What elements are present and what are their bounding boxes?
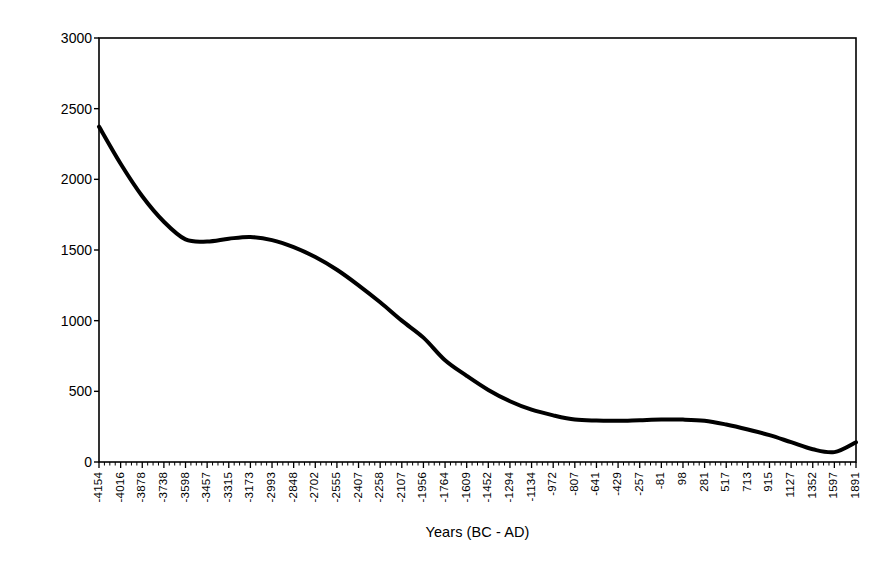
x-axis-tick-label: 915 <box>763 472 775 492</box>
x-axis-tick-label: -1609 <box>461 472 473 502</box>
x-axis-tick-label: -1764 <box>439 472 451 502</box>
x-axis-tick-label: -4016 <box>115 472 127 502</box>
y-axis-tick-label: 0 <box>46 455 92 469</box>
y-axis-tick-label: 500 <box>46 384 92 398</box>
x-axis-tick-label: -2848 <box>288 472 300 502</box>
plot-frame <box>99 38 856 462</box>
pollen-count-line-chart: Plantago Pollen Count Years (BC - AD) 05… <box>0 0 892 564</box>
x-axis-tick-label: -4154 <box>93 472 105 502</box>
x-axis-tick-label: -1956 <box>417 472 429 502</box>
x-axis-tick-label: -3457 <box>201 472 213 502</box>
x-axis-tick-label: -2258 <box>374 472 386 502</box>
x-axis-tick-label: -2993 <box>266 472 278 502</box>
x-axis-tick-label: 1352 <box>807 472 819 498</box>
x-axis-tick-label: -1134 <box>526 472 538 502</box>
x-axis-tick-label: -3738 <box>158 472 170 502</box>
x-axis-tick-label: -1294 <box>504 472 516 502</box>
y-axis-tick-label: 1000 <box>46 314 92 328</box>
x-axis-tick-label: -3173 <box>244 472 256 502</box>
x-axis-tick-label: 1597 <box>828 472 840 498</box>
x-axis-title: Years (BC - AD) <box>99 524 856 540</box>
y-axis-tick-label: 2500 <box>46 102 92 116</box>
x-axis-tick-label: -3315 <box>223 472 235 502</box>
x-axis-tick-label: 281 <box>699 472 711 492</box>
x-axis-tick-label: -1452 <box>482 472 494 502</box>
x-axis-tick-label: -2407 <box>353 472 365 502</box>
y-axis-title: Plantago Pollen Count <box>8 0 32 62</box>
x-axis-tick-label: -3598 <box>180 472 192 502</box>
x-axis-tick-label: -2555 <box>331 472 343 502</box>
y-axis-tick-label: 1500 <box>46 243 92 257</box>
x-axis-tick-label: 713 <box>742 472 754 492</box>
x-axis-tick-label: -257 <box>634 472 646 496</box>
x-axis-tick-label: -807 <box>569 472 581 496</box>
x-axis-tick-label: 1891 <box>850 472 862 498</box>
x-axis-tick-label: -81 <box>655 472 667 489</box>
x-axis-tick-label: -3878 <box>136 472 148 502</box>
x-axis-tick-label: -972 <box>547 472 559 496</box>
x-axis-tick-label: -429 <box>612 472 624 496</box>
x-axis-tick-label: -641 <box>590 472 602 496</box>
x-axis-tick-label: 98 <box>677 472 689 485</box>
y-axis-tick-label: 2000 <box>46 172 92 186</box>
x-axis-tick-label: -2702 <box>309 472 321 502</box>
x-axis-tick-label: 517 <box>720 472 732 492</box>
y-axis-tick-label: 3000 <box>46 31 92 45</box>
x-axis-tick-label: -2107 <box>396 472 408 502</box>
data-series-line <box>99 127 856 453</box>
x-axis-tick-label: 1127 <box>785 472 797 498</box>
